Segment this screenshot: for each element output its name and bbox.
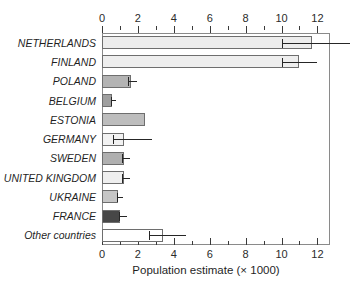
category-label: Other countries [24,229,96,241]
axis-tick-label-bottom: 2 [126,248,150,260]
error-bar-cap [282,58,283,67]
error-bar-line [282,62,318,63]
category-label: ESTONIA [50,114,96,126]
category-label: NETHERLANDS [18,37,96,49]
axis-tick-label-bottom: 8 [234,248,258,260]
axis-tick-major [317,26,318,33]
axis-tick-minor [192,241,193,245]
axis-tick-label-bottom: 10 [270,248,294,260]
category-label: UKRAINE [49,191,96,203]
category-label: FRANCE [53,210,96,222]
bar [102,171,124,184]
axis-tick-label-top: 4 [162,12,186,24]
bar [102,190,118,203]
error-bar-cap [119,212,120,221]
axis-tick-major [246,238,247,245]
axis-tick-major [210,26,211,33]
axis-tick-minor [228,241,229,245]
axis-tick-label-top: 6 [198,12,222,24]
category-label: BELGIUM [49,95,96,107]
x-axis-title-text: Population estimate (× 1000) [132,264,279,276]
error-bar-cap [122,154,123,163]
axis-tick-minor [264,26,265,30]
axis-tick-label-top: 10 [270,12,294,24]
error-bar-line [149,235,187,236]
x-axis-title: Population estimate (× 1000) [0,264,350,276]
bar [102,75,131,88]
axis-tick-minor [156,26,157,30]
axis-tick-major [246,26,247,33]
error-bar-line [128,81,137,82]
error-bar-cap [117,193,118,202]
axis-tick-label-bottom: 0 [90,248,114,260]
axis-tick-label-bottom: 6 [198,248,222,260]
axis-tick-major [102,26,103,33]
category-label: SWEDEN [50,152,96,164]
axis-tick-major [282,26,283,33]
category-label: FINLAND [51,56,96,68]
bar [102,210,120,223]
error-bar-cap [149,231,150,240]
error-bar-cap [282,39,283,48]
error-bar-cap [113,135,114,144]
axis-tick-label-bottom: 4 [162,248,186,260]
axis-tick-minor [264,241,265,245]
axis-tick-label-top: 12 [305,12,329,24]
axis-tick-minor [120,26,121,30]
bar [102,55,299,68]
axis-tick-major [174,26,175,33]
bar [102,152,124,165]
error-bar-line [122,158,130,159]
axis-tick-minor [299,241,300,245]
axis-tick-major [174,238,175,245]
error-bar-line [122,178,130,179]
error-bar-line [113,139,153,140]
category-label: GERMANY [43,133,96,145]
error-bar-cap [111,97,112,106]
error-bar-cap [128,77,129,86]
axis-tick-minor [299,26,300,30]
bar [102,113,145,126]
axis-tick-major [317,238,318,245]
error-bar-line [282,43,350,44]
axis-tick-minor [192,26,193,30]
axis-tick-label-top: 0 [90,12,114,24]
category-label: POLAND [53,75,96,87]
axis-tick-label-bottom: 12 [305,248,329,260]
axis-tick-label-top: 2 [126,12,150,24]
axis-tick-label-top: 8 [234,12,258,24]
axis-tick-major [210,238,211,245]
bar [102,36,312,49]
category-label: UNITED KINGDOM [4,172,96,184]
axis-tick-major [282,238,283,245]
error-bar-line [119,216,127,217]
bar-chart-figure: 002244668810101212 NETHERLANDSFINLANDPOL… [0,0,350,289]
axis-tick-minor [228,26,229,30]
error-bar-cap [122,174,123,183]
axis-tick-major [138,26,139,33]
